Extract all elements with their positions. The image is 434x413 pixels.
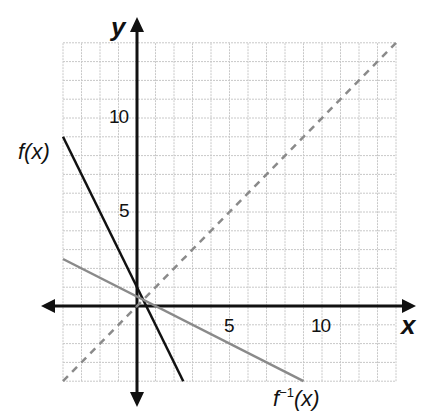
f-inverse-label: f−1(x) <box>273 385 320 412</box>
x-axis-label: x <box>401 310 415 341</box>
finv-label-superscript: −1 <box>279 385 294 400</box>
y-axis-label: y <box>111 12 125 43</box>
f-label-suffix: ) <box>42 139 49 164</box>
f-of-x-label: f(x) <box>18 139 50 165</box>
f-label-var: x <box>31 139 42 164</box>
f-label-prefix: f( <box>18 139 31 164</box>
y-axis-down-arrow-icon <box>130 392 144 407</box>
x-tick-label-5: 5 <box>224 315 234 337</box>
y-axis-up-arrow-icon <box>130 17 144 32</box>
y-tick-label-10: 10 <box>109 106 128 128</box>
x-axis-left-arrow-icon <box>41 299 55 313</box>
finv-label-rest: (x) <box>294 386 320 411</box>
coordinate-plane <box>0 0 434 413</box>
y-tick-label-5: 5 <box>119 200 129 222</box>
x-tick-label-10: 10 <box>311 315 330 337</box>
